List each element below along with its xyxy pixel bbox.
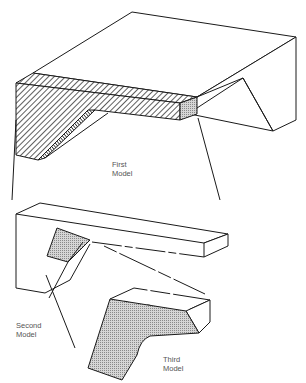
- third-model: [88, 288, 210, 380]
- second-model-section: [47, 228, 90, 262]
- second-model-label: Second Model: [16, 321, 41, 339]
- second-model-top-face: [16, 203, 228, 243]
- second-model: [16, 203, 228, 298]
- diagram-canvas: [0, 0, 306, 383]
- first-model: [16, 12, 296, 160]
- first-model-label: First Model: [112, 160, 132, 178]
- leader-line-left: [12, 120, 16, 200]
- third-model-label: Third Model: [163, 355, 183, 373]
- leader-line-third: [104, 246, 205, 294]
- leader-line-right: [198, 118, 220, 200]
- leader-line-second-label: [46, 275, 75, 348]
- second-model-bottom-edge: [92, 242, 204, 257]
